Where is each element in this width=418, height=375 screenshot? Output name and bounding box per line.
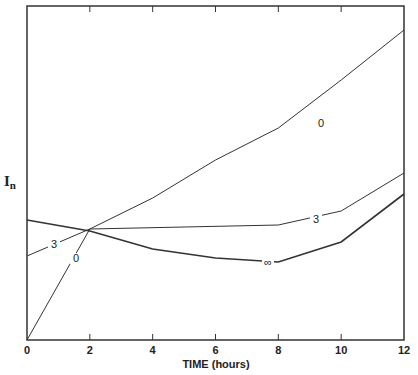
curves (27, 30, 404, 340)
x-axis-label: TIME (hours) (182, 358, 250, 370)
curve-label-0: 0 (73, 252, 79, 264)
curve-3 (27, 173, 404, 256)
plot-frame (27, 6, 404, 340)
x-tick-label: 0 (24, 344, 30, 356)
chart: 024681012 0033∞ TIME (hours) In (0, 0, 418, 375)
plot-border (27, 6, 404, 340)
y-axis-label: In (4, 173, 16, 191)
x-tick-label: 4 (150, 344, 157, 356)
curve-label-3: 3 (51, 238, 57, 250)
curve-label-infinity: ∞ (264, 256, 272, 268)
curve-label-0: 0 (318, 117, 324, 129)
x-tick-label: 2 (87, 344, 93, 356)
axis-ticks: 024681012 (24, 6, 410, 356)
x-tick-label: 12 (398, 344, 410, 356)
labels: 0033∞ (48, 117, 327, 268)
x-tick-label: 8 (275, 344, 281, 356)
curve-0 (27, 30, 404, 340)
x-tick-label: 10 (335, 344, 347, 356)
x-tick-label: 6 (212, 344, 218, 356)
curve-infinity (27, 194, 404, 262)
curve-label-3: 3 (313, 213, 319, 225)
